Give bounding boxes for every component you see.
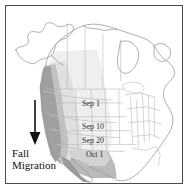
fall-migration-figure: Sep 1 Sep 10 Sep 20 Oct 1 Fall Migration xyxy=(0,0,189,190)
coastline-arctic-north xyxy=(83,26,117,31)
border-gulf-florida xyxy=(133,146,161,166)
fall-migration-caption: Fall Migration xyxy=(12,147,78,171)
isochrone-label-sep10: Sep 10 xyxy=(82,123,104,131)
coastline-northeast-islands xyxy=(154,43,171,61)
border-east-3 xyxy=(129,121,163,125)
caption-line-migration: Migration xyxy=(12,159,78,171)
fall-migration-arrow-icon xyxy=(26,99,44,146)
great-lakes xyxy=(123,82,144,93)
border-east-5 xyxy=(131,97,133,144)
caption-line-fall: Fall xyxy=(12,147,78,159)
isochrone-label-oct1: Oct 1 xyxy=(86,151,104,159)
map-frame: Sep 1 Sep 10 Sep 20 Oct 1 Fall Migration xyxy=(5,5,183,184)
border-east-1 xyxy=(125,93,155,97)
border-east-2 xyxy=(127,107,161,111)
border-east-4 xyxy=(133,135,161,139)
isochrone-label-sep1: Sep 1 xyxy=(82,100,100,108)
border-east-9 xyxy=(148,95,149,140)
isochrone-label-sep20: Sep 20 xyxy=(82,137,104,145)
border-east-6 xyxy=(142,93,144,142)
